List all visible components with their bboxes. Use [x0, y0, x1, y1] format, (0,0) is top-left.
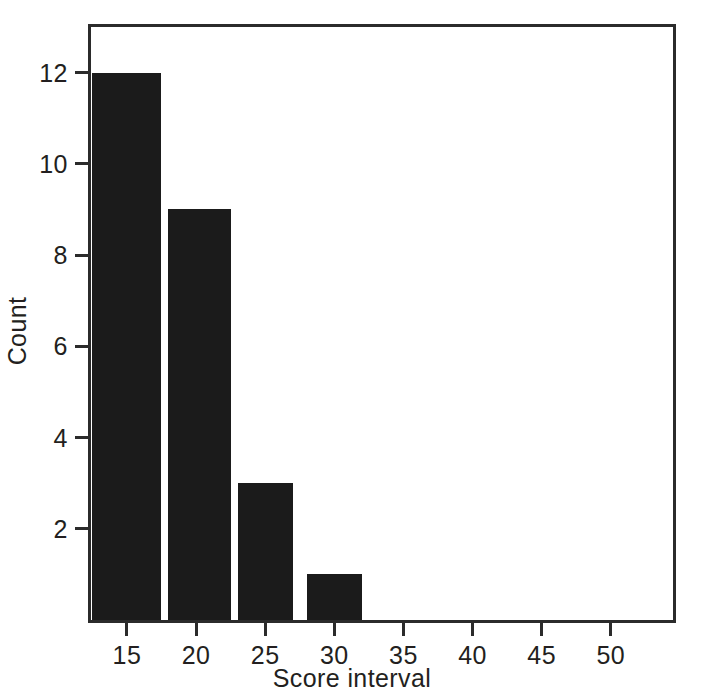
y-axis-title: Count [2, 297, 32, 366]
x-tick-35 [402, 623, 405, 636]
bar-25 [238, 483, 293, 620]
y-tick-label-8: 8 [0, 240, 68, 270]
x-tick-50 [609, 623, 612, 636]
x-tick-30 [333, 623, 336, 636]
y-tick-10 [75, 162, 88, 165]
x-axis-title: Score interval [0, 662, 704, 694]
bar-20 [168, 209, 230, 620]
y-tick-6 [75, 345, 88, 348]
y-tick-2 [75, 527, 88, 530]
x-tick-45 [540, 623, 543, 636]
y-tick-label-4: 4 [0, 423, 68, 453]
x-tick-40 [471, 623, 474, 636]
x-tick-15 [125, 623, 128, 636]
x-tick-25 [264, 623, 267, 636]
bar-15 [92, 73, 161, 620]
y-tick-12 [75, 71, 88, 74]
y-tick-label-10: 10 [0, 149, 68, 179]
y-tick-label-12: 12 [0, 58, 68, 88]
y-tick-8 [75, 254, 88, 257]
bar-30 [307, 574, 362, 620]
bars-layer [91, 27, 673, 620]
histogram-figure: 1520253035404550 24681012 Score interval… [0, 0, 704, 700]
y-tick-4 [75, 436, 88, 439]
y-tick-label-2: 2 [0, 514, 68, 544]
x-tick-20 [195, 623, 198, 636]
